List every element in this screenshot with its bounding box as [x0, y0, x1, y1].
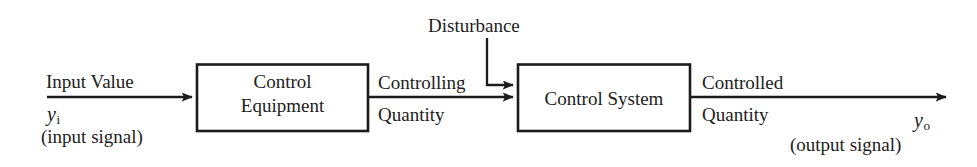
- output-variable: yo: [914, 110, 930, 132]
- control-equipment-label: Control Equipment: [197, 70, 368, 119]
- input-value-label: Input Value: [46, 72, 134, 91]
- disturbance-arrow: [487, 38, 513, 85]
- control-system-label-line1: Control System: [518, 87, 690, 111]
- control-equipment-label-line1: Control: [197, 70, 368, 94]
- controlling-label: Controlling: [378, 73, 466, 92]
- disturbance-label: Disturbance: [428, 16, 520, 35]
- controlled-label: Controlled: [702, 73, 783, 92]
- control-system-label: Control System: [518, 87, 690, 111]
- controlled-quantity-label: Quantity: [702, 105, 769, 124]
- block-diagram-figure: Control Equipment Control System Input V…: [0, 0, 977, 167]
- controlling-quantity-label: Quantity: [378, 105, 445, 124]
- input-signal-note: (input signal): [41, 127, 143, 146]
- input-variable: yi: [47, 104, 60, 126]
- control-equipment-label-line2: Equipment: [197, 94, 368, 118]
- output-signal-note: (output signal): [790, 135, 901, 154]
